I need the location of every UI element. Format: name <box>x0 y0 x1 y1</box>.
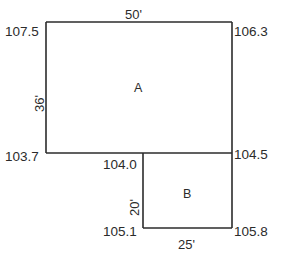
dimension-label-left: 36' <box>33 95 46 112</box>
elevation-label-top-right: 106.3 <box>234 25 268 39</box>
dimension-label-top: 50' <box>125 8 142 21</box>
elevation-label-bottom-right-b: 105.8 <box>234 225 268 239</box>
dimension-label-inner-left: 20' <box>128 199 141 216</box>
elevation-label-mid-inner: 104.0 <box>103 158 137 172</box>
parcel-diagram: 107.5 106.3 103.7 104.0 104.5 105.1 105.… <box>0 0 284 263</box>
elevation-label-bottom-left-b: 105.1 <box>103 225 137 239</box>
area-label-a: A <box>134 82 142 95</box>
elevation-label-top-left: 107.5 <box>5 25 39 39</box>
elevation-label-mid-right: 104.5 <box>234 148 268 162</box>
elevation-label-bottom-left-a: 103.7 <box>5 150 39 164</box>
dimension-label-bottom: 25' <box>178 238 195 251</box>
area-label-b: B <box>183 188 191 201</box>
